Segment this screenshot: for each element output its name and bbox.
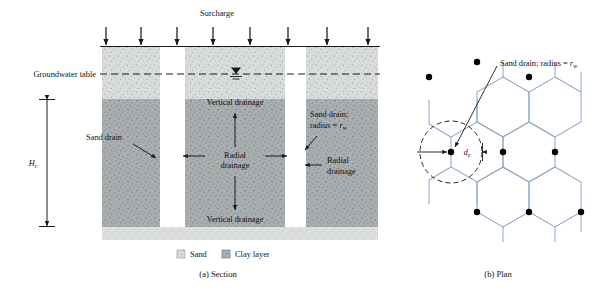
equivalent-diameter-label: de [464, 148, 471, 158]
legend-label-clay: Clay layer [235, 250, 270, 259]
radial-drainage-right-label-line1: Radial [327, 156, 350, 165]
clay-thickness-label: Hc [28, 159, 38, 169]
sand-layer-right [306, 47, 378, 99]
sand-drain-dot [552, 149, 558, 155]
hexagon-edge-stub [429, 167, 451, 180]
clay-layer-left [102, 99, 160, 227]
sand-drain-dots [426, 59, 584, 215]
plan-callout-label: Sand drain; radius = rw [500, 59, 577, 69]
hexagon-cell [503, 122, 555, 182]
sand-layer-center [185, 47, 285, 99]
sand-drain-radius-label-line1: Sand drain; [310, 110, 348, 119]
sand-drain-dot [448, 149, 454, 155]
radial-drainage-center-label-line2: drainage [221, 161, 250, 170]
sand-drain-dot [474, 59, 480, 65]
figure-sand-drain: Surcharge Groundwater table Hc Sand drai… [0, 0, 604, 294]
hexagon-edge-stub [429, 124, 451, 137]
surcharge-label: Surcharge [200, 9, 234, 18]
plan-callout-pointer [455, 66, 497, 147]
caption-section: (a) Section [199, 269, 237, 279]
sand-drain-dot [526, 209, 532, 215]
groundwater-table-label: Groundwater table [33, 70, 96, 79]
legend-swatch-clay [222, 250, 230, 258]
radial-drainage-right-label-line2: drainage [327, 167, 356, 176]
clay-thickness-dimension: Hc [28, 100, 55, 227]
section-diagram: Surcharge Groundwater table Hc Sand drai… [28, 9, 380, 279]
base-sand-layer [102, 227, 378, 240]
caption-plan: (b) Plan [484, 269, 512, 279]
sand-drain-label: Sand drain [86, 133, 123, 142]
plan-diagram: de Sand drain; radius = rw (b) Plan [417, 59, 584, 279]
legend-swatch-sand [177, 250, 185, 258]
sand-drain-dot [500, 149, 506, 155]
vertical-drainage-top-label: Vertical drainage [207, 98, 264, 107]
sand-layer-left [102, 47, 160, 99]
sand-drain-radius-label-line2: radius = rw [310, 121, 347, 131]
surcharge-arrows [106, 27, 368, 45]
sand-drain-dot [426, 74, 432, 80]
hexagon-cell [477, 167, 529, 227]
radial-drainage-center-label-line1: Radial [224, 151, 247, 160]
sand-drain-dot [578, 209, 584, 215]
figure-canvas: Surcharge Groundwater table Hc Sand drai… [0, 0, 604, 294]
sand-drain-dot [526, 74, 532, 80]
sand-drain-dot [474, 209, 480, 215]
hexagon-cell [529, 167, 581, 227]
hexagon-cell [529, 77, 581, 137]
vertical-drainage-bottom-label: Vertical drainage [207, 215, 264, 224]
legend: Sand Clay layer [177, 250, 270, 259]
hexagon-cell [477, 77, 529, 137]
legend-label-sand: Sand [190, 250, 208, 259]
hexagon-cell [451, 122, 503, 182]
